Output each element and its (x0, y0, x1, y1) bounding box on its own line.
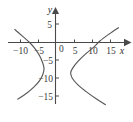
graph-canvas: −10 −5 5 10 15 0 5 −5 −10 −15 x y (0, 0, 133, 122)
y-tick-label--15: −15 (38, 92, 53, 102)
curve-left-branch (15, 30, 44, 100)
y-axis-label: y (47, 4, 53, 15)
x-tick-label--10: −10 (13, 46, 28, 56)
x-tick-label-5: 5 (73, 46, 78, 56)
x-tick-label-15: 15 (106, 46, 116, 56)
x-axis-arrowhead (124, 39, 132, 46)
curve-right-branch (71, 28, 119, 105)
y-axis-arrowhead (52, 7, 59, 14)
x-axis-label: x (119, 45, 125, 56)
y-tick-label--5: −5 (43, 56, 53, 66)
y-tick-label-5: 5 (47, 20, 52, 30)
origin-label: 0 (59, 44, 64, 54)
hyperbola-graph-figure: −10 −5 5 10 15 0 5 −5 −10 −15 x y (0, 0, 133, 122)
